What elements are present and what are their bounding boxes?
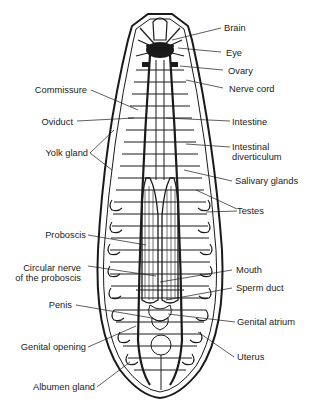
label-proboscis: Proboscis <box>45 230 86 240</box>
label-uterus: Uterus <box>237 352 264 362</box>
label-intestine: Intestine <box>232 117 267 127</box>
gland-loops <box>108 200 212 365</box>
label-yolk-gland: Yolk gland <box>45 148 88 158</box>
label-albumen-gland: Albumen gland <box>33 382 95 392</box>
label-testes: Testes <box>237 206 264 216</box>
label-nerve-cord: Nerve cord <box>229 84 274 94</box>
label-circular-nerve-line1: Circular nerve <box>23 263 81 273</box>
label-salivary-glands: Salivary glands <box>235 176 298 186</box>
label-intestinal-diverticulum-line1: Intestinal <box>232 142 269 152</box>
label-intestinal-diverticulum-line2: diverticulum <box>232 152 282 162</box>
label-circular-nerve: Circular nerve of the proboscis <box>15 263 81 283</box>
brain-region <box>136 18 184 67</box>
label-genital-opening: Genital opening <box>21 342 86 352</box>
label-eye: Eye <box>226 48 242 58</box>
label-brain: Brain <box>224 23 246 33</box>
label-circular-nerve-line2: of the proboscis <box>15 273 81 283</box>
label-penis: Penis <box>49 300 72 310</box>
diverticula <box>110 70 210 370</box>
proboscis <box>136 178 184 303</box>
label-sperm-duct: Sperm duct <box>236 283 284 293</box>
body-outline <box>97 14 222 398</box>
label-mouth: Mouth <box>236 265 262 275</box>
label-intestinal-diverticulum: Intestinal diverticulum <box>232 142 282 162</box>
label-commissure: Commissure <box>35 85 87 95</box>
intestine <box>156 60 164 180</box>
label-oviduct: Oviduct <box>41 117 73 127</box>
label-ovary: Ovary <box>228 66 253 76</box>
genital-region <box>149 305 172 390</box>
label-genital-atrium: Genital atrium <box>237 317 295 327</box>
